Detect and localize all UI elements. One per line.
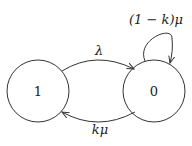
edge-1-to-0: λ xyxy=(62,43,134,71)
node-1: 1 xyxy=(7,60,69,122)
state-diagram: 1 0 λ kμ (1 − k)μ xyxy=(0,0,192,146)
self-loop-label: (1 − k)μ xyxy=(129,12,183,27)
edge-kmu-label: kμ xyxy=(92,122,108,137)
edge-lambda-label: λ xyxy=(94,43,103,58)
node-0: 0 xyxy=(123,60,185,122)
edge-0-to-1: kμ xyxy=(62,112,135,137)
node-1-label: 1 xyxy=(34,84,42,99)
self-loop-0: (1 − k)μ xyxy=(129,12,183,63)
node-0-label: 0 xyxy=(150,84,158,99)
